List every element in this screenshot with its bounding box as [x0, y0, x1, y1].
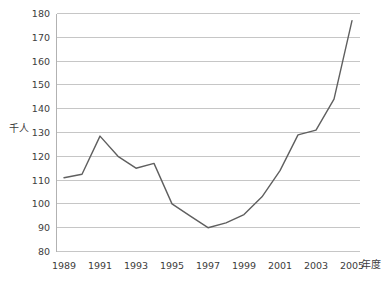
- data-series-line: [64, 21, 352, 228]
- x-tick-label: 1989: [52, 260, 76, 271]
- chart-page: 1801701601501401301201101009080198919911…: [0, 0, 382, 284]
- x-tick-label: 2001: [268, 260, 292, 271]
- x-tick-label: 1999: [232, 260, 256, 271]
- y-tick-label: 170: [32, 32, 50, 43]
- y-tick-label: 140: [32, 103, 50, 114]
- y-tick-label: 120: [32, 151, 50, 162]
- x-tick-label: 2003: [304, 260, 328, 271]
- x-tick-label: 1991: [88, 260, 112, 271]
- y-tick-label: 90: [38, 222, 50, 233]
- y-tick-label: 160: [32, 56, 50, 67]
- x-tick-label: 1995: [160, 260, 184, 271]
- y-tick-label: 80: [38, 246, 50, 257]
- y-tick-label: 180: [32, 8, 50, 19]
- line-chart: 1801701601501401301201101009080198919911…: [0, 0, 382, 284]
- y-tick-label: 100: [32, 198, 50, 209]
- y-axis-unit-label: 千人: [0, 123, 29, 135]
- y-tick-label: 130: [32, 127, 50, 138]
- x-axis-unit-label: 年度: [361, 259, 381, 271]
- y-tick-label: 110: [32, 175, 50, 186]
- y-tick-label: 150: [32, 79, 50, 90]
- x-tick-label: 1997: [196, 260, 220, 271]
- x-tick-label: 1993: [124, 260, 148, 271]
